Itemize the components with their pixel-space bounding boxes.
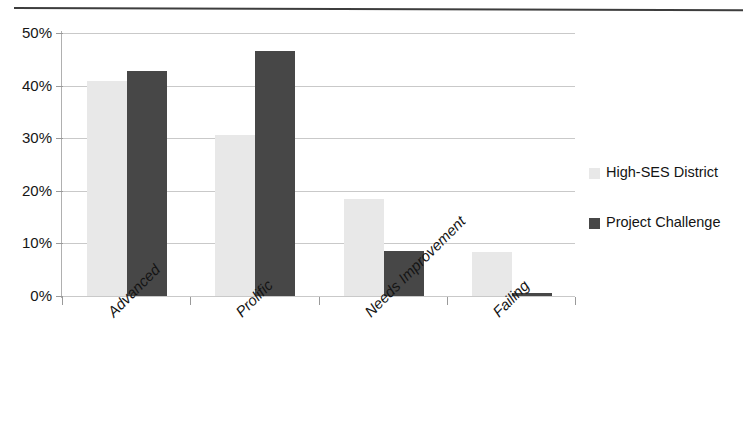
bar xyxy=(87,81,127,296)
bar xyxy=(255,51,295,296)
y-axis-label: 0% xyxy=(6,288,52,303)
legend-item[interactable]: Project Challenge xyxy=(589,218,743,268)
x-tick xyxy=(190,297,191,305)
legend-label: Project Challenge xyxy=(606,214,720,231)
legend-swatch-icon xyxy=(589,218,600,229)
chart-page: 0%10%20%30%40%50% AdvancedProlificNeeds … xyxy=(0,0,743,439)
legend-swatch-icon xyxy=(589,168,600,179)
bar-series-group xyxy=(62,33,575,296)
y-axis-labels: 0%10%20%30%40%50% xyxy=(0,0,52,439)
bar xyxy=(344,199,384,296)
legend-item[interactable]: High-SES District xyxy=(589,168,743,218)
page-top-rule xyxy=(14,7,743,11)
x-tick xyxy=(575,297,576,305)
y-axis-label: 10% xyxy=(6,235,52,250)
bar xyxy=(127,71,167,296)
y-axis-label: 20% xyxy=(6,183,52,198)
x-tick xyxy=(447,297,448,305)
y-axis-label: 30% xyxy=(6,130,52,145)
x-tick xyxy=(319,297,320,305)
x-tick xyxy=(62,297,63,305)
legend-label: High-SES District xyxy=(606,164,718,181)
chart-legend: High-SES DistrictProject Challenge xyxy=(589,168,743,268)
y-axis-label: 40% xyxy=(6,78,52,93)
y-axis-label: 50% xyxy=(6,25,52,40)
bar xyxy=(215,135,255,296)
